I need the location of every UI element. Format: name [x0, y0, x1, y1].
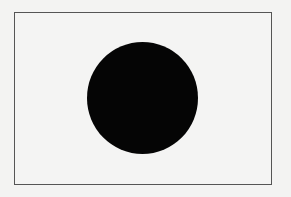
black-circle [87, 42, 198, 154]
image-canvas [0, 0, 291, 197]
